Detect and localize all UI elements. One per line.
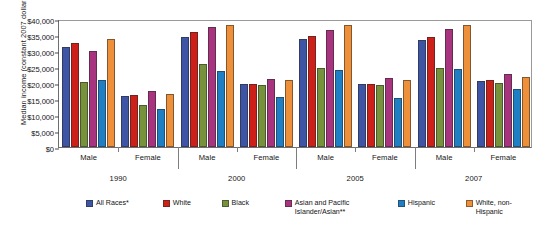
legend-item: White, non-Hispanic [466,199,538,217]
x-axis-sex-label: Male [296,153,355,162]
bar-group-bars [474,21,533,147]
bar [418,40,426,147]
bar-group-bars [178,21,237,147]
bar [477,81,485,147]
legend-label: Hispanic [408,199,435,208]
legend-label: White [173,199,191,208]
bar [427,37,435,147]
legend-label: White, non-Hispanic [476,199,538,217]
bar [486,80,494,147]
x-axis-sex-label: Female [355,153,414,162]
bar [513,89,521,147]
y-axis-tick-mark [55,149,59,150]
bar-group [118,21,177,147]
bar [454,69,462,147]
legend-item: Hispanic [398,199,466,208]
bar [258,85,266,147]
legend-item: White [163,199,222,208]
legend-label: All Races* [96,199,129,208]
x-axis-sex-label: Male [178,153,237,162]
x-axis-year-separator [178,147,179,169]
bar [436,68,444,147]
x-axis-sex-separator [355,147,356,152]
bar [217,71,225,147]
legend-item: Asian and Pacific Islander/Asian** [285,199,398,217]
bar [317,68,325,147]
legend-swatch-icon [86,200,93,207]
legend-item: Black [222,199,285,208]
bar [199,64,207,147]
bar [121,96,129,147]
x-axis-year-label: 2005 [296,174,415,183]
bar-group [355,21,414,147]
bar [299,39,307,147]
bar [249,84,257,147]
bar-group [296,21,355,147]
legend-swatch-icon [163,200,170,207]
bar [445,29,453,147]
bar [522,77,530,147]
bar-group-bars [118,21,177,147]
bar [276,97,284,147]
bar [385,78,393,147]
bar [107,39,115,147]
bar [358,84,366,147]
bar [139,105,147,147]
legend-swatch-icon [398,200,405,207]
legend-label: Black [232,199,249,208]
bar-group [474,21,533,147]
bar [80,82,88,147]
bar [394,98,402,147]
bar [226,25,234,147]
bar-group [59,21,118,147]
bar [130,95,138,147]
bar [71,43,79,147]
x-axis-sex-label: Female [118,153,177,162]
bar [504,74,512,147]
x-axis-sex-separator [237,147,238,152]
x-axis-year-separator [415,147,416,169]
x-axis-sex-label: Female [237,153,296,162]
bar [98,80,106,147]
plot-area: $0$5,000$10,000$15,000$20,000$25,000$30,… [58,20,532,148]
bar [240,84,248,147]
x-axis-sex-label: Female [474,153,533,162]
bar [326,30,334,147]
bar-group-bars [296,21,355,147]
bar [208,27,216,147]
bar [166,94,174,147]
bar-group-bars [59,21,118,147]
x-axis-year-label: 1990 [59,174,178,183]
bar [463,25,471,147]
bar-group-bars [237,21,296,147]
median-income-bar-chart: Median income (constant 2007 dollars) $0… [0,0,560,227]
legend-swatch-icon [285,200,292,207]
bar [344,25,352,147]
bar [89,51,97,147]
bar [367,84,375,147]
bar [403,80,411,147]
bar [335,70,343,147]
bar [267,79,275,147]
chart-legend: All Races*WhiteBlackAsian and Pacific Is… [86,199,538,217]
bar [148,91,156,147]
bar-group [178,21,237,147]
bar [157,109,165,147]
x-axis-year-label: 2007 [415,174,534,183]
legend-label: Asian and Pacific Islander/Asian** [295,199,349,217]
y-axis-title: Median income (constant 2007 dollars) [19,0,28,140]
x-axis-sex-label: Male [59,153,118,162]
bar [495,83,503,147]
x-axis-year-separator [296,147,297,169]
bar [285,80,293,147]
x-axis-sex-separator [118,147,119,152]
bar-group-bars [415,21,474,147]
x-axis-sex-label: Male [415,153,474,162]
x-axis-sex-separator [474,147,475,152]
bar [181,37,189,147]
bar [376,85,384,147]
bar [190,32,198,147]
legend-swatch-icon [222,200,229,207]
bar [308,36,316,147]
legend-swatch-icon [466,200,473,207]
